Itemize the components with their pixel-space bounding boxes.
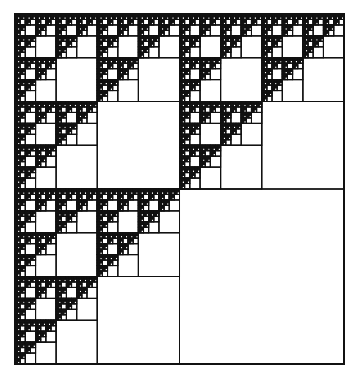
sierpinski-fractal-diagram (0, 0, 358, 379)
